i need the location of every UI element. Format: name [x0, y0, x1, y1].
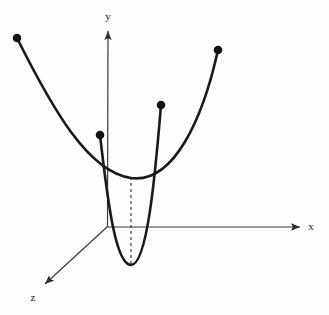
endpoint-dots-group	[13, 34, 223, 140]
narrow-parabola-right-endpoint-dot	[157, 101, 166, 110]
wide-parabola-curve	[17, 38, 218, 178]
narrow-parabola-left-endpoint-dot	[96, 131, 105, 140]
axis-labels-group: x y z	[31, 10, 315, 303]
parabola-diagram: x y z	[0, 0, 329, 315]
y-axis-label: y	[105, 10, 111, 22]
wide-parabola-left-endpoint-dot	[13, 34, 22, 43]
z-axis-label: z	[31, 291, 36, 303]
z-axis-line	[45, 227, 107, 284]
wide-parabola-right-endpoint-dot	[214, 46, 223, 55]
diagram-canvas: x y z	[0, 0, 329, 315]
x-axis-label: x	[308, 220, 314, 232]
